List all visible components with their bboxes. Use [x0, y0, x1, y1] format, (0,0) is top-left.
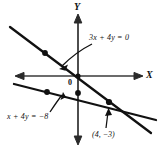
leader-equation-1 — [59, 44, 92, 71]
coordinate-graph-figure: Y X 0 3x + 4y = 0 x + 4y = −8 (4, −3) — [0, 0, 159, 155]
y-axis-label: Y — [74, 2, 80, 12]
y-axis-arrow-down-icon — [74, 136, 82, 145]
y-axis-arrow-up-icon — [74, 14, 82, 23]
leader-equation-2-curve — [50, 95, 62, 112]
x-axis-arrow-right-icon — [134, 72, 143, 79]
point-dot-intersection — [106, 99, 112, 105]
x-axis-arrow-left-icon — [15, 72, 24, 79]
leader-intersection-point — [105, 108, 112, 128]
point-dot-on-line2 — [44, 89, 50, 95]
point-dot-origin — [75, 73, 80, 78]
equation-2-label: x + 4y = −8 — [7, 113, 49, 121]
equation-1-label: 3x + 4y = 0 — [89, 34, 129, 42]
point-dot-on-line1 — [42, 50, 48, 56]
graph-canvas — [0, 0, 159, 155]
intersection-point-label: (4, −3) — [92, 131, 115, 139]
leader-equation-1-curve — [62, 44, 92, 66]
x-axis-label: X — [146, 70, 153, 80]
origin-label: 0 — [68, 79, 72, 87]
point-dot-y-intercept — [75, 90, 81, 96]
